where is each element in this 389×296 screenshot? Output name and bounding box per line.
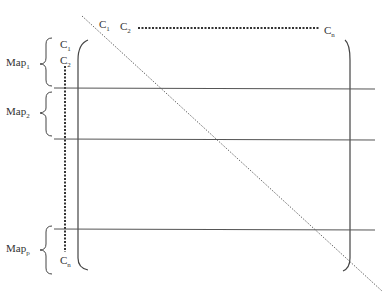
left-label-cn: Cn [60,254,71,269]
top-label-cn: Cn [324,24,335,39]
brace-map2 [40,92,52,136]
map-label-2: Map2 [6,105,30,120]
left-matrix-bracket [78,40,88,270]
matrix-diagram [0,0,389,296]
top-label-c1: C1 [99,18,110,33]
brace-mapp [40,226,52,274]
map-label-1: Map1 [6,56,30,71]
top-label-c2: C2 [120,20,131,35]
map-label-p: Mapp [6,242,30,257]
right-matrix-bracket [343,40,350,271]
left-label-c2: C2 [60,54,71,69]
separator-line-2 [54,139,375,140]
diagonal-dotted-line [82,16,382,291]
brace-map1 [40,38,52,86]
separator-line-1 [54,88,375,89]
left-label-c1: C1 [60,38,71,53]
separator-line-3 [54,229,375,230]
